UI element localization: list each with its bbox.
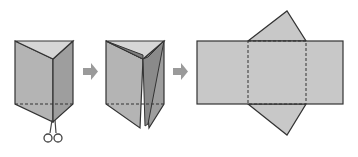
closed-prism [15, 41, 73, 122]
cut-prism [106, 41, 164, 128]
scissors-icon [44, 120, 62, 142]
arrow-right-icon [83, 63, 98, 80]
prism-net [197, 11, 343, 135]
prism-net-diagram [0, 0, 358, 157]
arrow-right-icon [173, 63, 188, 80]
